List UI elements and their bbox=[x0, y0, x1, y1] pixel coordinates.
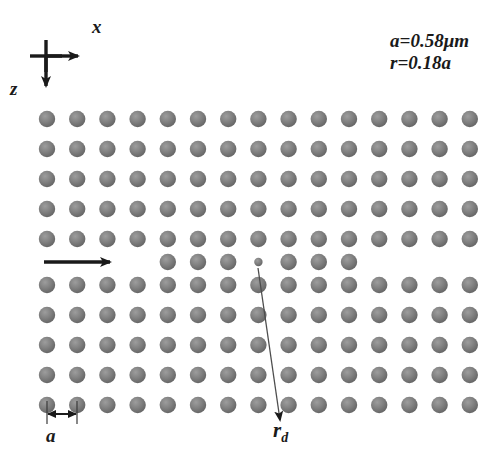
lattice-rod bbox=[371, 367, 387, 383]
lattice-rod bbox=[69, 201, 85, 217]
lattice-rod bbox=[250, 231, 266, 247]
lattice-rod bbox=[250, 201, 266, 217]
lattice-rod bbox=[280, 141, 296, 157]
lattice-rod bbox=[99, 141, 115, 157]
lattice-rod bbox=[371, 307, 387, 323]
lattice-rod bbox=[129, 337, 145, 353]
lattice-rod bbox=[160, 231, 176, 247]
lattice-rod bbox=[462, 337, 478, 353]
lattice-rod bbox=[129, 231, 145, 247]
lattice-rod bbox=[220, 397, 236, 413]
lattice-rod bbox=[371, 111, 387, 127]
lattice-rod bbox=[341, 367, 357, 383]
lattice-rod bbox=[462, 231, 478, 247]
defect-radius-label: rd bbox=[273, 418, 288, 447]
axis-label-x: x bbox=[92, 16, 102, 38]
lattice-rod bbox=[431, 141, 447, 157]
waveguide-rod bbox=[190, 254, 206, 270]
lattice-rod bbox=[280, 171, 296, 187]
lattice-rod bbox=[371, 277, 387, 293]
lattice-rod bbox=[431, 111, 447, 127]
lattice-rod bbox=[371, 201, 387, 217]
lattice-rod bbox=[341, 337, 357, 353]
lattice-rod bbox=[69, 367, 85, 383]
lattice-rod bbox=[280, 201, 296, 217]
lattice-rod bbox=[129, 277, 145, 293]
lattice-rod bbox=[371, 397, 387, 413]
lattice-rod bbox=[311, 171, 327, 187]
lattice-rod bbox=[401, 397, 417, 413]
lattice-rod bbox=[160, 277, 176, 293]
lattice-rod bbox=[99, 171, 115, 187]
lattice-rod bbox=[250, 277, 266, 293]
lattice-rod bbox=[311, 111, 327, 127]
photonic-crystal-figure: x z a=0.58μm r=0.18a a rd bbox=[0, 0, 504, 464]
lattice-rod bbox=[371, 337, 387, 353]
lattice-rod bbox=[190, 367, 206, 383]
lattice-rod bbox=[220, 307, 236, 323]
lattice-rod bbox=[341, 307, 357, 323]
waveguide-rod bbox=[311, 254, 327, 270]
lattice-rod bbox=[401, 111, 417, 127]
lattice-rod bbox=[280, 367, 296, 383]
lattice-rod bbox=[250, 397, 266, 413]
defect-rod bbox=[254, 258, 262, 266]
lattice-rod bbox=[190, 307, 206, 323]
lattice-rod bbox=[220, 337, 236, 353]
lattice-rod bbox=[160, 397, 176, 413]
lattice-rod bbox=[99, 397, 115, 413]
lattice-rod bbox=[280, 231, 296, 247]
lattice-rod bbox=[401, 337, 417, 353]
lattice-rod bbox=[280, 397, 296, 413]
lattice-rod bbox=[431, 367, 447, 383]
lattice-rod bbox=[69, 307, 85, 323]
lattice-rod bbox=[401, 307, 417, 323]
lattice-rod bbox=[311, 141, 327, 157]
lattice-rod bbox=[190, 111, 206, 127]
lattice-rod bbox=[341, 231, 357, 247]
lattice-rod bbox=[250, 141, 266, 157]
lattice-rod bbox=[99, 111, 115, 127]
lattice-rod bbox=[39, 307, 55, 323]
lattice-rod bbox=[99, 367, 115, 383]
lattice-rod bbox=[311, 277, 327, 293]
lattice-rod bbox=[129, 367, 145, 383]
lattice-rod bbox=[129, 201, 145, 217]
lattice-rod bbox=[190, 231, 206, 247]
radius-text: r=0.18a bbox=[390, 52, 469, 74]
lattice-rod bbox=[462, 201, 478, 217]
lattice-rod bbox=[160, 111, 176, 127]
lattice-rod bbox=[311, 337, 327, 353]
lattice-constant-label: a bbox=[46, 425, 56, 447]
waveguide-rod bbox=[341, 254, 357, 270]
lattice-rod bbox=[311, 307, 327, 323]
lattice-rod bbox=[69, 277, 85, 293]
defect-radius-symbol: r bbox=[273, 418, 281, 442]
lattice-rod bbox=[129, 307, 145, 323]
lattice-rod bbox=[341, 277, 357, 293]
lattice-rod bbox=[190, 201, 206, 217]
lattice-rod bbox=[341, 171, 357, 187]
lattice-rod bbox=[401, 201, 417, 217]
lattice-rod bbox=[39, 367, 55, 383]
lattice-rod bbox=[39, 171, 55, 187]
lattice-rod bbox=[69, 337, 85, 353]
lattice-rod bbox=[99, 337, 115, 353]
lattice-rod bbox=[69, 171, 85, 187]
waveguide-rod bbox=[280, 254, 296, 270]
lattice-rod bbox=[371, 141, 387, 157]
lattice-rod bbox=[311, 201, 327, 217]
lattice-rod bbox=[69, 231, 85, 247]
lattice-rod bbox=[160, 367, 176, 383]
lattice-rod bbox=[39, 231, 55, 247]
lattice-rod bbox=[462, 111, 478, 127]
lattice-rod bbox=[129, 141, 145, 157]
lattice-rod bbox=[69, 111, 85, 127]
lattice-rod bbox=[39, 201, 55, 217]
lattice-rod bbox=[69, 141, 85, 157]
lattice-rod bbox=[190, 397, 206, 413]
lattice-rod bbox=[250, 337, 266, 353]
lattice-rod bbox=[311, 367, 327, 383]
lattice-rod bbox=[462, 171, 478, 187]
lattice-rod bbox=[129, 111, 145, 127]
